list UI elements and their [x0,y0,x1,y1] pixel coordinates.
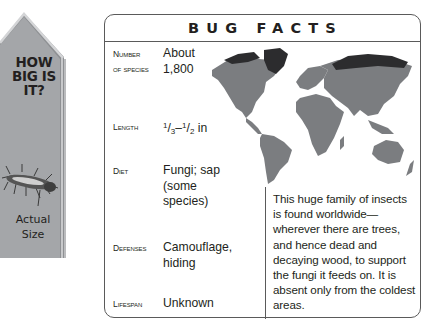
fact-label-number-of-species: Number of species [113,47,149,77]
fact-value-length: 1/3–1/2 in [163,118,207,140]
pennant-caption: Actual Size [0,212,64,242]
fact-value-number-of-species: About 1,800 [163,46,195,77]
bug-facts-card: BUG FACTS Number of species About 1,800 … [104,14,421,318]
card-title: BUG FACTS [105,15,420,42]
description-text: This huge family of insects is found wor… [273,191,418,313]
world-map-icon [208,46,420,186]
bug-illustration-icon [0,160,60,210]
how-big-is-it-pennant: HOW BIG IS IT? Actual Size [0,12,66,258]
fact-label-defenses: Defenses [113,241,146,256]
description-divider [265,187,266,319]
fact-label-diet: Diet [113,164,128,179]
fact-label-length: Length [113,120,138,135]
fact-label-lifespan: Lifespan [113,297,142,312]
pennant-title: HOW BIG IS IT? [0,55,64,97]
fact-value-defenses: Camouflage, hiding [163,240,232,271]
fact-value-lifespan: Unknown [163,296,214,312]
